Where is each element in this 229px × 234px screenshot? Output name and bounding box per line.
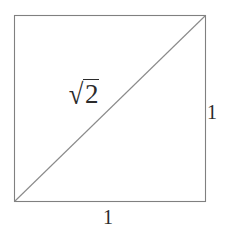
radicand-value: 2 [83, 81, 100, 108]
diagonal-line [15, 16, 206, 202]
bottom-side-length-label: 1 [103, 207, 113, 227]
diagonal-length-label: √2 [68, 79, 99, 108]
right-side-length-label: 1 [207, 102, 217, 122]
figure-canvas [0, 0, 229, 234]
radical-expression: √2 [68, 79, 99, 108]
radical-sign-icon: √ [69, 80, 84, 109]
geometry-figure: √2 1 1 [0, 0, 229, 234]
